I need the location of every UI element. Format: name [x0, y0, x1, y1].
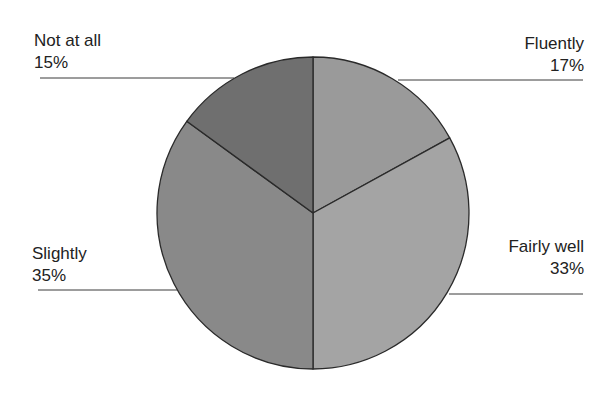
label-not-at-all-name: Not at all — [34, 30, 101, 52]
label-fairly-well-pct: 33% — [508, 258, 584, 280]
pie-slices — [157, 57, 469, 369]
label-not-at-all: Not at all 15% — [34, 30, 101, 74]
label-slightly: Slightly 35% — [32, 243, 87, 287]
label-not-at-all-pct: 15% — [34, 52, 101, 74]
label-fluently-name: Fluently — [524, 33, 584, 55]
label-slightly-name: Slightly — [32, 243, 87, 265]
label-slightly-pct: 35% — [32, 265, 87, 287]
label-fluently: Fluently 17% — [524, 33, 584, 77]
label-fairly-well: Fairly well 33% — [508, 236, 584, 280]
label-fluently-pct: 17% — [524, 55, 584, 77]
label-fairly-well-name: Fairly well — [508, 236, 584, 258]
